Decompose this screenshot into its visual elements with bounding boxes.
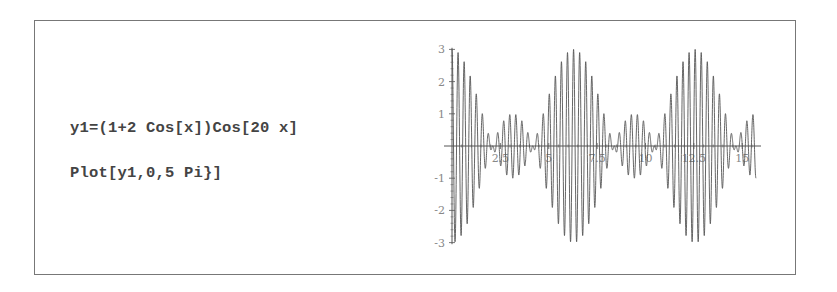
- y-tick-label: -2: [434, 204, 445, 217]
- y-tick-label: -3: [434, 237, 445, 250]
- function-plot: 2.557.51012.515-3-2-1123: [0, 0, 837, 292]
- y-tick-label: -1: [434, 172, 445, 185]
- x-tick-label: 7.5: [588, 152, 606, 165]
- y-tick-label: 2: [438, 76, 445, 89]
- y-tick-label: 1: [438, 108, 445, 121]
- y-tick-label: 3: [438, 43, 445, 56]
- x-tick-label: 15: [735, 152, 749, 165]
